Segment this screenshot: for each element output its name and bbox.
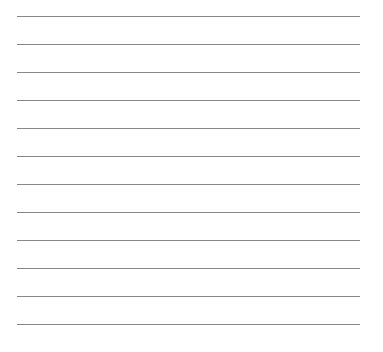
lined-paper [0,0,383,352]
ruled-line [17,296,360,297]
ruled-line [17,268,360,269]
ruled-line [17,44,360,45]
ruled-line [17,212,360,213]
ruled-line [17,72,360,73]
ruled-line [17,128,360,129]
ruled-line [17,324,360,325]
ruled-line [17,156,360,157]
ruled-line [17,16,360,17]
ruled-line [17,184,360,185]
ruled-line [17,240,360,241]
ruled-line [17,100,360,101]
